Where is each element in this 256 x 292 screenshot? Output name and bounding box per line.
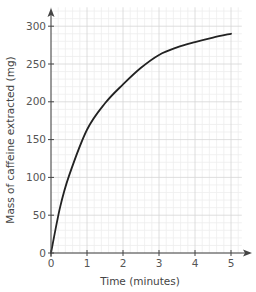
x-tick-label: 3 [156, 257, 163, 269]
y-tick-label: 0 [39, 247, 46, 259]
y-axis-ticks: 050100150200250300 [26, 20, 54, 259]
grid-minor [51, 7, 242, 253]
y-tick-label: 300 [26, 20, 46, 32]
y-tick-label: 200 [26, 95, 46, 107]
y-tick-label: 100 [26, 171, 46, 183]
x-tick-label: 1 [84, 257, 91, 269]
y-tick-label: 250 [26, 58, 46, 70]
x-tick-label: 4 [192, 257, 199, 269]
x-axis-title: Time (minutes) [99, 275, 180, 287]
x-tick-label: 0 [48, 257, 55, 269]
x-tick-label: 5 [228, 257, 235, 269]
y-tick-label: 50 [33, 209, 46, 221]
y-axis-title: Mass of caffeine extracted (mg) [4, 56, 16, 223]
x-tick-label: 2 [120, 257, 127, 269]
data-curve [51, 34, 231, 253]
y-tick-label: 150 [26, 133, 46, 145]
chart: 012345 050100150200250300 Time (minutes)… [0, 0, 256, 292]
axes [48, 8, 253, 257]
